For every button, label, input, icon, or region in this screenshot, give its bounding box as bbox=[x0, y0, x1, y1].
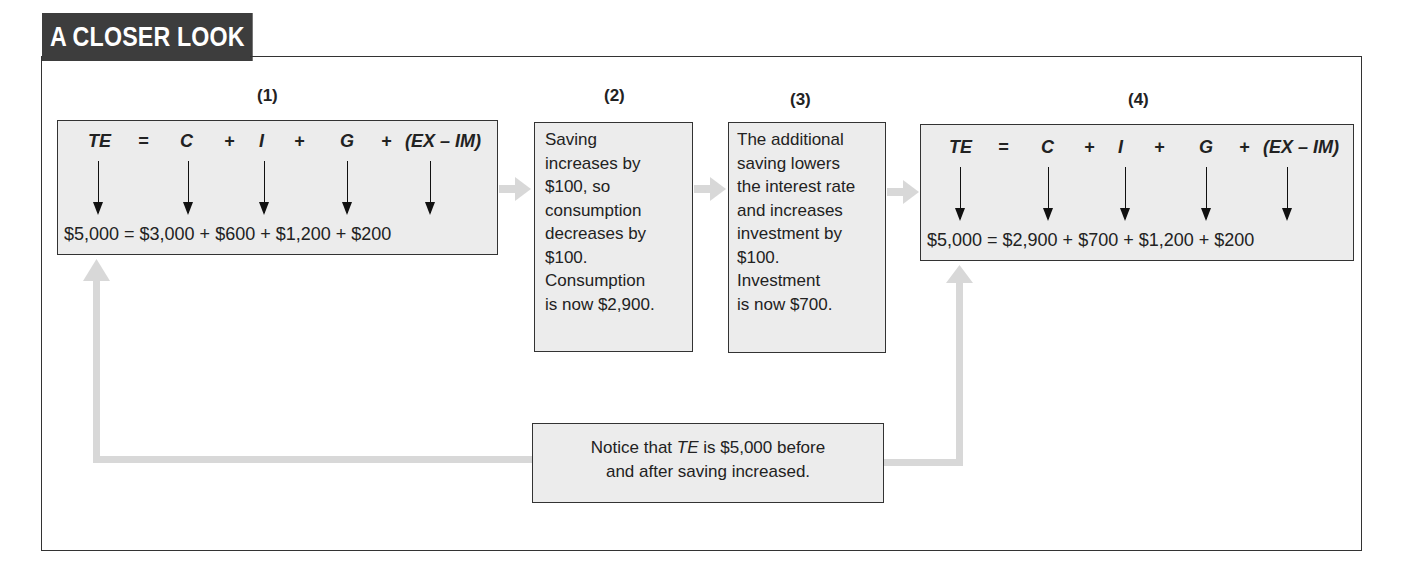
g-symbol: G bbox=[340, 131, 354, 152]
plus-sign: + bbox=[294, 131, 305, 152]
plus-sign: + bbox=[1239, 137, 1250, 158]
text-line: is now $700. bbox=[737, 293, 877, 317]
text-line: increases by bbox=[545, 152, 684, 176]
plus-sign: + bbox=[1084, 137, 1095, 158]
note-text: is $5,000 before bbox=[699, 438, 826, 457]
net-exports-symbol: (EX – IM) bbox=[405, 131, 481, 152]
equation-values: $5,000 = $2,900 + $700 + $1,200 + $200 bbox=[927, 230, 1254, 251]
note-text: Notice that bbox=[591, 438, 677, 457]
net-exports-symbol: (EX – IM) bbox=[1263, 137, 1339, 158]
down-arrow-icon bbox=[960, 167, 961, 219]
down-arrow-icon bbox=[430, 161, 431, 213]
text-line: saving lowers bbox=[737, 152, 877, 176]
down-arrow-icon bbox=[188, 161, 189, 213]
return-path-left-horizontal bbox=[93, 456, 533, 463]
down-arrow-icon bbox=[1048, 167, 1049, 219]
frame-top-rule bbox=[250, 56, 1362, 57]
text-line: investment by bbox=[737, 222, 877, 246]
plus-sign: + bbox=[224, 131, 235, 152]
down-arrow-icon bbox=[1287, 167, 1288, 219]
down-arrow-icon bbox=[264, 161, 265, 213]
text-line: $100. bbox=[737, 246, 877, 270]
te-symbol: TE bbox=[949, 137, 972, 158]
down-arrow-icon bbox=[1206, 167, 1207, 219]
equation-values: $5,000 = $3,000 + $600 + $1,200 + $200 bbox=[64, 224, 391, 245]
te-symbol: TE bbox=[88, 131, 111, 152]
equation-box-before: TE = C + I + G + (EX – IM) $5,000 = $3,0… bbox=[57, 120, 498, 255]
equals-sign: = bbox=[138, 131, 149, 152]
text-line: is now $2,900. bbox=[545, 293, 684, 317]
text-line: $100, so bbox=[545, 175, 684, 199]
section-header-tab: A CLOSER LOOK bbox=[42, 13, 253, 61]
c-symbol: C bbox=[1041, 137, 1054, 158]
plus-sign: + bbox=[381, 131, 392, 152]
flow-arrow-up-icon bbox=[83, 259, 110, 281]
text-line: The additional bbox=[737, 128, 877, 152]
note-line-1: Notice that TE is $5,000 before bbox=[533, 436, 883, 460]
text-line: Saving bbox=[545, 128, 684, 152]
text-line: $100. bbox=[545, 246, 684, 270]
plus-sign: + bbox=[1154, 137, 1165, 158]
down-arrow-icon bbox=[1125, 167, 1126, 219]
text-line: Investment bbox=[737, 269, 877, 293]
step-3-number: (3) bbox=[790, 90, 811, 110]
step-2-description-box: Saving increases by $100, so consumption… bbox=[534, 122, 693, 352]
text-line: and increases bbox=[737, 199, 877, 223]
step-2-number: (2) bbox=[604, 86, 625, 106]
flow-arrow-right-icon bbox=[694, 177, 726, 201]
i-symbol: I bbox=[259, 131, 264, 152]
return-path-right-horizontal bbox=[884, 459, 963, 466]
flow-arrow-right-icon bbox=[887, 180, 919, 204]
note-line-2: and after saving increased. bbox=[533, 460, 883, 484]
text-line: Consumption bbox=[545, 269, 684, 293]
summary-note-box: Notice that TE is $5,000 before and afte… bbox=[532, 423, 884, 503]
step-4-number: (4) bbox=[1128, 90, 1149, 110]
flow-arrow-right-icon bbox=[499, 177, 531, 201]
down-arrow-icon bbox=[347, 161, 348, 213]
equals-sign: = bbox=[998, 137, 1009, 158]
flow-arrow-up-icon bbox=[946, 265, 973, 283]
step-1-number: (1) bbox=[257, 86, 278, 106]
text-line: decreases by bbox=[545, 222, 684, 246]
section-title: A CLOSER LOOK bbox=[50, 22, 245, 53]
return-path-left-vertical bbox=[93, 280, 100, 462]
equation-box-after: TE = C + I + G + (EX – IM) $5,000 = $2,9… bbox=[920, 124, 1354, 261]
text-line: consumption bbox=[545, 199, 684, 223]
c-symbol: C bbox=[180, 131, 193, 152]
down-arrow-icon bbox=[98, 161, 99, 213]
i-symbol: I bbox=[1118, 137, 1123, 158]
return-path-right-vertical bbox=[956, 280, 963, 466]
step-3-description-box: The additional saving lowers the interes… bbox=[728, 122, 886, 353]
note-te-symbol: TE bbox=[677, 438, 699, 457]
g-symbol: G bbox=[1199, 137, 1213, 158]
text-line: the interest rate bbox=[737, 175, 877, 199]
